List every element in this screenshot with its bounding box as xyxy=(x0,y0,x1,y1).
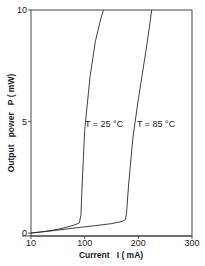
x-ticks: 10100200300 xyxy=(26,236,200,248)
y-axis-title: Output power P ( mW) xyxy=(6,74,16,173)
label-t25: T = 25 °C xyxy=(85,119,124,129)
label-t85: T = 85 °C xyxy=(137,119,176,129)
x-tick-label: 10 xyxy=(26,238,36,248)
x-tick-label: 200 xyxy=(131,238,146,248)
x-axis-title: Current I ( mA) xyxy=(79,250,143,260)
y-tick-label: 5 xyxy=(22,117,27,127)
x-tick-label: 300 xyxy=(184,238,199,248)
y-tick-label: 10 xyxy=(17,5,27,15)
chart: 0510 10100200300 T = 25 °C T = 85 °C Cur… xyxy=(0,0,205,266)
y-ticks: 0510 xyxy=(17,5,31,238)
x-tick-label: 100 xyxy=(77,238,92,248)
y-tick-label: 0 xyxy=(22,228,27,238)
